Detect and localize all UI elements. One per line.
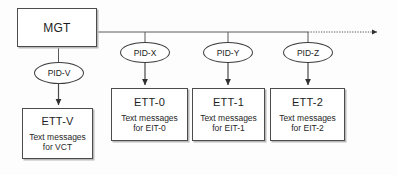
ett-0-box: ETT-0 Text messages for EIT-0 bbox=[111, 88, 188, 141]
ett-1-box: ETT-1 Text messages for EIT-1 bbox=[192, 88, 265, 141]
ett-v-title: ETT-V bbox=[41, 115, 73, 127]
diagram-canvas: MGT PID-V PID-X PID-Y PID-Z ETT-V Text m… bbox=[0, 0, 397, 175]
ett-v-box: ETT-V Text messages for VCT bbox=[22, 108, 93, 159]
pid-x-label: PID-X bbox=[134, 48, 157, 58]
ett-2-body: Text messages for EIT-2 bbox=[279, 113, 336, 134]
pid-x-ellipse: PID-X bbox=[120, 42, 170, 63]
pid-z-ellipse: PID-Z bbox=[283, 42, 333, 63]
ett-v-body: Text messages for VCT bbox=[29, 132, 86, 153]
ett-0-title: ETT-0 bbox=[134, 96, 165, 108]
mgt-label: MGT bbox=[43, 21, 70, 35]
pid-y-label: PID-Y bbox=[217, 48, 240, 58]
ett-1-title: ETT-1 bbox=[213, 96, 244, 108]
mgt-box: MGT bbox=[17, 8, 97, 47]
pid-v-label: PID-V bbox=[48, 68, 71, 78]
ett-0-body: Text messages for EIT-0 bbox=[121, 113, 178, 134]
pid-y-ellipse: PID-Y bbox=[203, 42, 253, 63]
ett-2-title: ETT-2 bbox=[292, 96, 323, 108]
ett-2-box: ETT-2 Text messages for EIT-2 bbox=[270, 88, 345, 141]
ett-1-body: Text messages for EIT-1 bbox=[200, 113, 257, 134]
pid-v-ellipse: PID-V bbox=[34, 62, 84, 84]
pid-z-label: PID-Z bbox=[297, 48, 319, 58]
